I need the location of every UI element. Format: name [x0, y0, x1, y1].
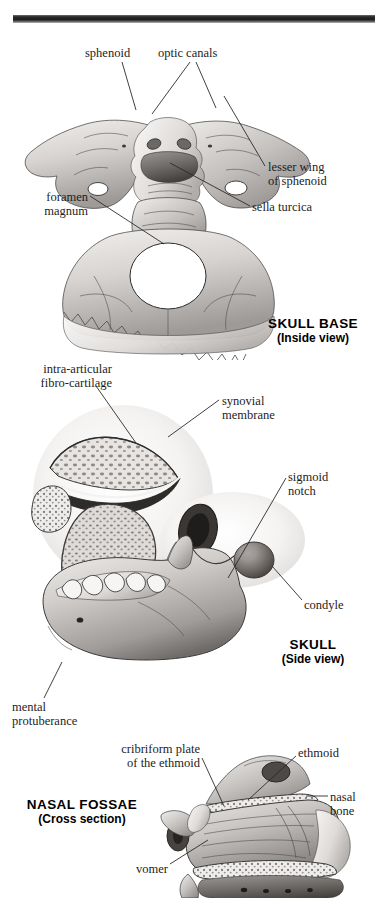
label-cribriform-plate-of-the-ethmoid: cribriform plate of the ethmoid: [98, 742, 200, 770]
section-title-skull-base: SKULL BASE (Inside view): [244, 316, 382, 346]
skull-side-subtitle: (Side view): [248, 652, 378, 667]
label-ethmoid: ethmoid: [298, 746, 339, 760]
skull-base-title: SKULL BASE: [244, 316, 382, 331]
label-sella-turcica: sella turcica: [252, 200, 312, 214]
section-title-nasal-fossae: NASAL FOSSAE (Cross section): [8, 797, 156, 827]
label-intra-articular-fibro-cartilage: intra-articular fibro-cartilage: [14, 362, 112, 390]
label-sphenoid: sphenoid: [85, 46, 130, 60]
nasal-fossae-subtitle: (Cross section): [8, 812, 156, 827]
anatomy-plate: sphenoid optic canals lesser wing of sph…: [0, 0, 384, 901]
label-nasal-bone: nasal bone: [330, 790, 356, 818]
label-lesser-wing-of-sphenoid: lesser wing of sphenoid: [268, 160, 327, 188]
label-vomer: vomer: [108, 862, 168, 876]
label-mental-protuberance: mental protuberance: [12, 700, 77, 728]
label-condyle: condyle: [304, 598, 344, 612]
label-sigmoid-notch: sigmoid notch: [288, 470, 328, 498]
section-title-skull-side: SKULL (Side view): [248, 637, 378, 667]
skull-side-title: SKULL: [248, 637, 378, 652]
nasal-fossae-title: NASAL FOSSAE: [8, 797, 156, 812]
skull-base-subtitle: (Inside view): [244, 331, 382, 346]
figure-nasal-fossae: [148, 748, 384, 898]
label-synovial-membrane: synovial membrane: [222, 394, 275, 422]
label-foramen-magnum: foramen magnum: [10, 190, 88, 218]
header-rule: [13, 15, 375, 23]
label-optic-canals: optic canals: [158, 46, 217, 60]
